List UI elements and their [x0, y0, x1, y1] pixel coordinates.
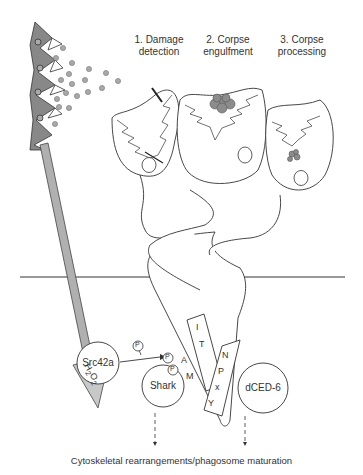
step-2-line2: engulfment: [196, 46, 260, 58]
step-1-line2: detection: [129, 46, 189, 58]
outcome-label: Cytoskeletal rearrangements/phagosome ma…: [0, 455, 363, 467]
step-3-line1: 3. Corpse: [270, 34, 334, 46]
phospho-itam-1-label: P: [165, 353, 170, 360]
h2o2-dots: [52, 45, 120, 126]
itam-letter-i: I: [196, 322, 199, 332]
itam-letter-t: T: [199, 339, 205, 349]
step-3-label: 3. Corpse processing: [270, 34, 334, 58]
phosphorylation-arrow: [120, 357, 160, 362]
step-1-line1: 1. Damage: [129, 34, 189, 46]
npxy-letter-y: Y: [208, 398, 214, 408]
npxy-letter-x: x: [215, 382, 220, 392]
step-1-label: 1. Damage detection: [129, 34, 189, 58]
src42a-label: Src42a: [77, 357, 119, 368]
shark-label: Shark: [142, 380, 184, 391]
phospho-free-label: P: [135, 341, 140, 348]
npxy-letter-p: P: [218, 366, 224, 376]
itam-letter-m: M: [186, 371, 194, 381]
dced6-label: dCED-6: [238, 382, 288, 393]
npxy-letter-n: N: [222, 350, 229, 360]
damaged-cell-icon: [30, 22, 65, 150]
step-3-line2: processing: [270, 46, 334, 58]
step-2-line1: 2. Corpse: [196, 34, 260, 46]
itam-letter-a: A: [181, 355, 187, 365]
step-2-label: 2. Corpse engulfment: [196, 34, 260, 58]
phospho-itam-2-label: P: [170, 365, 175, 372]
h2o2-sub1: 2: [83, 369, 93, 377]
diagram-canvas: [0, 0, 363, 475]
